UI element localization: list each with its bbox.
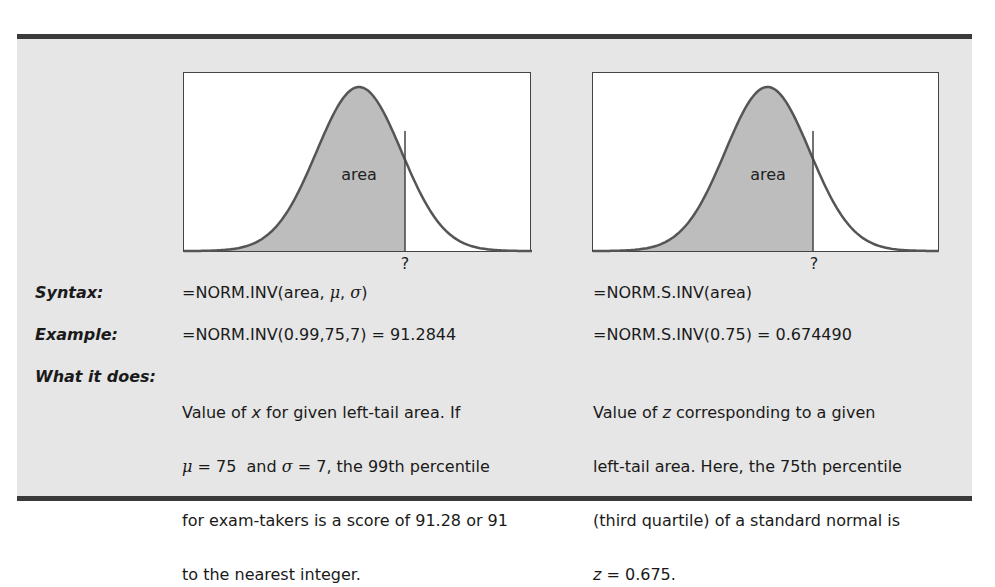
norm-inv-syntax: =NORM.INV(area, μ, σ)	[182, 284, 367, 302]
left-normal-chart: area	[183, 72, 531, 252]
example-label: Example:	[35, 325, 118, 344]
norm-s-inv-example: =NORM.S.INV(0.75) = 0.674490	[593, 326, 852, 344]
description-line: Value of x for given left-tail area. If	[182, 404, 508, 422]
area-label: area	[341, 165, 377, 184]
syntax-label: Syntax:	[35, 283, 104, 302]
description-line: to the nearest integer.	[182, 566, 508, 584]
top-rule	[17, 34, 972, 39]
norm-inv-description: Value of x for given left-tail area. If …	[182, 368, 508, 587]
description-line: (third quartile) of a standard normal is	[593, 512, 902, 530]
area-label: area	[750, 165, 786, 184]
norm-inv-example: =NORM.INV(0.99,75,7) = 91.2844	[182, 326, 456, 344]
standard-normal-curve-graphic	[593, 73, 940, 253]
normal-curve-graphic	[184, 73, 532, 253]
description-line: for exam-takers is a score of 91.28 or 9…	[182, 512, 508, 530]
what-it-does-label: What it does:	[35, 367, 156, 386]
right-normal-chart: area	[592, 72, 939, 252]
norm-s-inv-description: Value of z corresponding to a given left…	[593, 368, 902, 587]
description-line: μ = 75 and σ = 7, the 99th percentile	[182, 458, 508, 476]
unknown-z-marker: ?	[810, 254, 819, 273]
description-line: Value of z corresponding to a given	[593, 404, 902, 422]
description-line: z = 0.675.	[593, 566, 902, 584]
norm-s-inv-syntax: =NORM.S.INV(area)	[593, 284, 752, 302]
unknown-x-marker: ?	[401, 254, 410, 273]
description-line: left-tail area. Here, the 75th percentil…	[593, 458, 902, 476]
